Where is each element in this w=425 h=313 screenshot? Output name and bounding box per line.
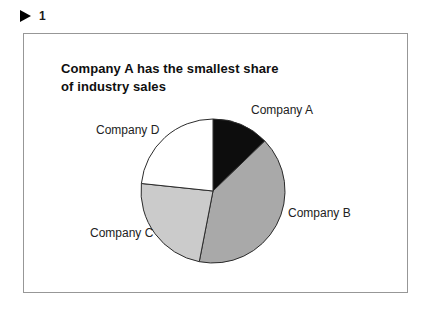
pie-chart <box>24 34 407 292</box>
pie-label-company-c: Company C <box>90 226 153 240</box>
pie-label-company-d: Company D <box>96 123 159 137</box>
pie-label-company-a: Company A <box>251 103 313 117</box>
pie-label-company-b: Company B <box>288 206 351 220</box>
figure-frame: Company A has the smallest share of indu… <box>23 33 408 293</box>
play-triangle-icon <box>20 10 31 22</box>
slide-number: 1 <box>39 9 46 23</box>
slide-marker: 1 <box>20 9 46 23</box>
